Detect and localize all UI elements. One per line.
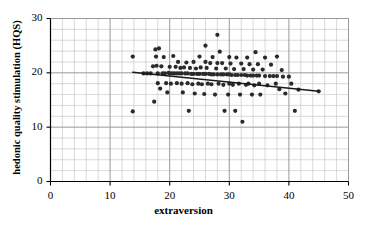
major-gridlines [51,19,349,182]
y-tick-label: 20 [13,65,43,77]
x-tick-label: 40 [269,189,309,201]
x-tick-label: 50 [329,189,367,201]
y-tick-label: 0 [13,174,43,186]
x-tick-label: 20 [150,189,190,201]
minor-gridlines [51,19,349,182]
plot-axes [51,19,349,182]
x-tick-label: 10 [90,189,130,201]
chart-figure: hedonic quality stimulation (HQS) extrav… [0,0,367,232]
x-tick-label: 0 [31,189,71,201]
y-tick-label: 30 [13,11,43,23]
x-tick-label: 30 [209,189,249,201]
y-tick-label: 10 [13,120,43,132]
data-points [131,33,321,124]
axis-tick-marks [47,19,349,186]
